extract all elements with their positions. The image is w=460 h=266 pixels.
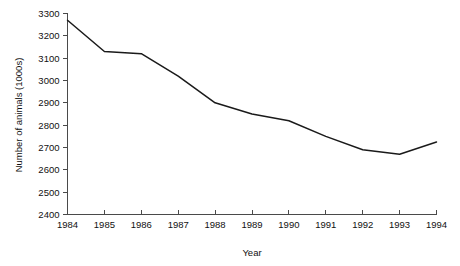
y-tick-label: 2700 [38, 142, 59, 153]
y-tick-label: 2600 [38, 164, 59, 175]
x-tick-label: 1991 [315, 219, 336, 230]
line-chart-figure: 2400250026002700280029003000310032003300… [0, 0, 460, 266]
y-tick-label: 3000 [38, 75, 59, 86]
x-tick-label: 1988 [205, 219, 226, 230]
y-tick-label: 2500 [38, 187, 59, 198]
x-tick-label: 1990 [278, 219, 299, 230]
x-tick-label: 1993 [389, 219, 410, 230]
x-axis: 1984198519861987198819891990199119921993… [57, 210, 447, 230]
y-tick-label: 3200 [38, 30, 59, 41]
x-axis-title: Year [242, 247, 261, 258]
y-axis-title: Number of animals (1000s) [13, 58, 24, 173]
y-axis: 2400250026002700280029003000310032003300 [38, 8, 67, 220]
x-tick-label: 1994 [426, 219, 447, 230]
x-tick-label: 1984 [57, 219, 78, 230]
series-line-number-of-animals [68, 20, 437, 154]
y-tick-label: 2800 [38, 120, 59, 131]
x-tick-label: 1987 [168, 219, 189, 230]
y-tick-label: 3100 [38, 53, 59, 64]
chart-canvas: 2400250026002700280029003000310032003300… [0, 0, 460, 266]
x-tick-label: 1986 [131, 219, 152, 230]
y-tick-label: 2900 [38, 97, 59, 108]
x-tick-label: 1985 [94, 219, 115, 230]
data-series-group [68, 20, 437, 154]
x-tick-label: 1992 [352, 219, 373, 230]
x-tick-label: 1989 [241, 219, 262, 230]
y-tick-label: 3300 [38, 8, 59, 19]
